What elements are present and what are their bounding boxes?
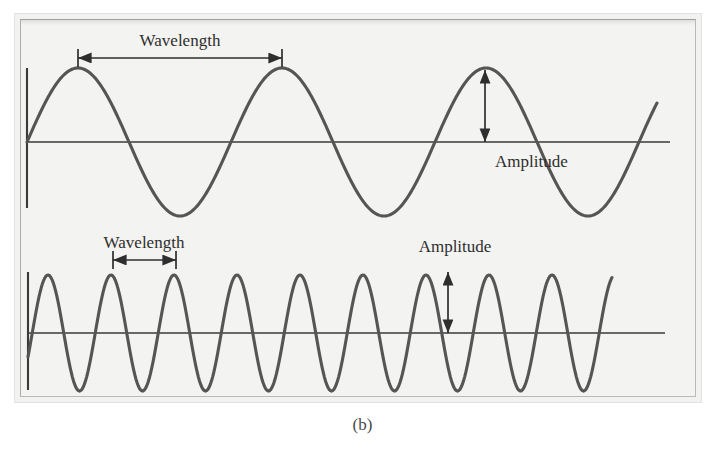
wave-plot: Wavelength Amplitude Wavelength Amplitud…	[14, 13, 702, 403]
top-wavelength-label: Wavelength	[140, 31, 221, 50]
wave-group-top: Wavelength Amplitude	[27, 31, 670, 216]
figure-caption: (b)	[0, 415, 725, 435]
wave-group-bottom: Wavelength Amplitude	[28, 233, 665, 391]
bottom-wavelength-label: Wavelength	[104, 233, 185, 252]
figure-root: Wavelength Amplitude Wavelength Amplitud…	[0, 0, 725, 470]
top-amplitude-label: Amplitude	[495, 152, 568, 171]
bottom-amplitude-label: Amplitude	[419, 237, 492, 256]
